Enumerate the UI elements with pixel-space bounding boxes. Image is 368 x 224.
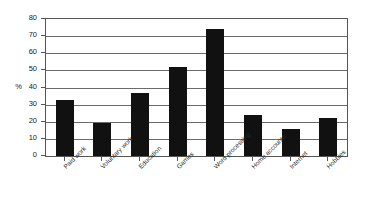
bars-group (46, 19, 347, 156)
y-axis-title: % (15, 83, 22, 91)
bar (93, 123, 111, 156)
bar (319, 118, 337, 156)
y-tick-label: 20 (29, 117, 37, 125)
y-tick-label: 0 (33, 151, 37, 159)
y-tick-label: 70 (29, 31, 37, 39)
bar (131, 93, 149, 156)
y-tick-label: 80 (29, 14, 37, 22)
y-tick-label: 40 (29, 83, 37, 91)
y-tick-label: 30 (29, 100, 37, 108)
bar (56, 100, 74, 157)
x-tick-mark (290, 157, 291, 161)
y-tick-label: 50 (29, 65, 37, 73)
y-axis: 01020304050607080% (0, 12, 45, 164)
bar (282, 129, 300, 156)
y-tick-label: 60 (29, 48, 37, 56)
plot-area (45, 18, 348, 157)
x-tick-mark (177, 157, 178, 161)
bar (206, 29, 224, 156)
bar-chart-figure: 01020304050607080% Paid workVoluntary wo… (0, 0, 368, 224)
y-tick-label: 10 (29, 134, 37, 142)
bar (169, 67, 187, 156)
x-axis: Paid workVoluntary workEducationGamesWor… (45, 157, 348, 224)
